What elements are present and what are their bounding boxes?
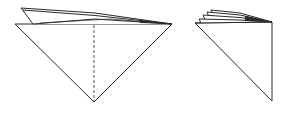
right-main-triangle	[195, 22, 272, 101]
figure-right-step	[195, 10, 272, 101]
diagram-svg	[0, 0, 281, 125]
origami-diagram	[0, 0, 281, 125]
figure-left-step	[15, 8, 172, 102]
